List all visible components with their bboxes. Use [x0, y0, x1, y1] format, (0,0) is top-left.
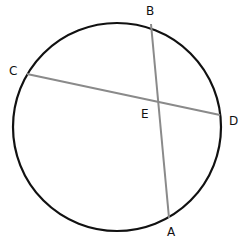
circle-chords-diagram: B C D E A	[0, 0, 246, 243]
label-a: A	[167, 225, 176, 239]
label-c: C	[9, 64, 17, 78]
label-b: B	[146, 4, 154, 18]
label-e: E	[141, 107, 149, 121]
circle	[13, 23, 221, 231]
label-d: D	[229, 114, 238, 128]
chord-ab	[151, 24, 169, 218]
chord-cd	[27, 74, 220, 115]
